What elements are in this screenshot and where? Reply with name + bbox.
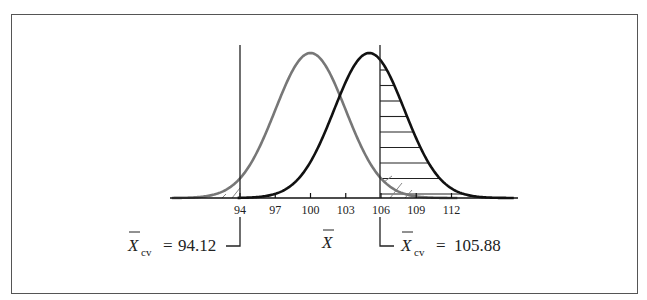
tick-label: 94	[234, 203, 246, 217]
svg-text:X: X	[127, 236, 139, 255]
tick-label: 97	[269, 203, 281, 217]
svg-text:cv: cv	[141, 246, 152, 258]
svg-text:X: X	[400, 236, 412, 255]
svg-text:X: X	[321, 233, 333, 252]
alternative-distribution-curve	[238, 53, 514, 198]
tick-label: 106	[372, 203, 390, 217]
tick-label: 103	[337, 203, 355, 217]
distribution-diagram: 9497100103106109112 X cv = 94.12 X X cv …	[0, 0, 647, 300]
right-critical-leader	[380, 217, 394, 246]
svg-text:105.88: 105.88	[454, 236, 501, 255]
tick-label: 100	[302, 203, 320, 217]
svg-text:94.12: 94.12	[178, 236, 216, 255]
svg-text:cv: cv	[414, 246, 425, 258]
left-critical-label: X cv = 94.12	[127, 232, 216, 258]
left-critical-leader	[226, 217, 240, 246]
null-distribution-curve	[172, 53, 458, 198]
svg-text:=: =	[436, 236, 446, 255]
tick-label: 112	[443, 203, 461, 217]
tick-label: 109	[407, 203, 425, 217]
svg-text:=: =	[163, 236, 173, 255]
power-region-hatching	[380, 70, 464, 194]
axis-label: X	[321, 230, 334, 252]
right-critical-label: X cv = 105.88	[400, 232, 501, 258]
